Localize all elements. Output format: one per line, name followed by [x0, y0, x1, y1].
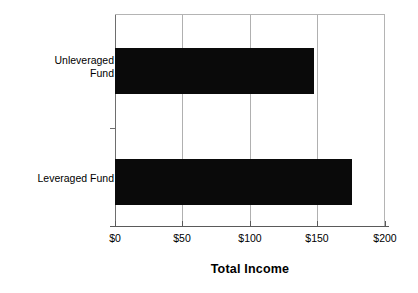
x-tick-label-0: $0 — [85, 232, 145, 245]
x-tick-50 — [182, 221, 183, 227]
x-tick-label-50: $50 — [152, 232, 212, 245]
bar-unleveraged-fund — [115, 48, 314, 94]
category-label-unleveraged-fund: Unleveraged Fund — [54, 54, 114, 79]
bar-leveraged-fund — [115, 159, 352, 205]
x-tick-150 — [317, 221, 318, 227]
category-divider-tick — [110, 128, 116, 129]
x-tick-label-150: $150 — [287, 232, 347, 245]
x-axis-title: Total Income — [115, 262, 385, 276]
x-tick-200 — [385, 221, 386, 227]
bar-chart: Unleveraged Fund Leveraged Fund $0 $50 $… — [0, 0, 418, 293]
x-tick-label-200: $200 — [355, 232, 415, 245]
x-tick-0 — [115, 221, 116, 227]
x-tick-label-100: $100 — [220, 232, 280, 245]
category-label-leveraged-fund: Leveraged Fund — [38, 172, 114, 185]
x-tick-100 — [250, 221, 251, 227]
plot-area — [115, 14, 385, 226]
